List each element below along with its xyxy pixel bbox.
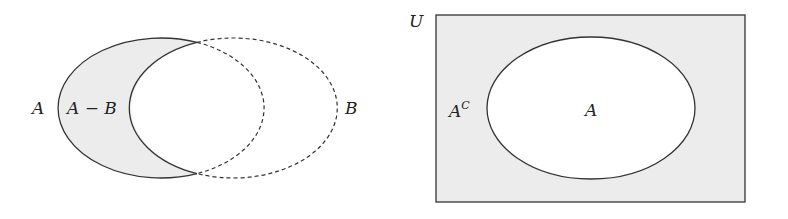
label-a-minus-b: A − B: [65, 98, 117, 118]
label-set-a-inner: A: [583, 100, 597, 120]
label-set-a: A: [30, 98, 44, 118]
complement-diagram: U AC A: [409, 11, 745, 202]
a-minus-b-region: [0, 0, 400, 219]
label-complement-base: A: [447, 101, 461, 121]
label-set-b: B: [344, 98, 358, 118]
label-complement-sup: C: [461, 99, 470, 112]
venn-diagrams: A A − B B U AC A: [0, 0, 788, 219]
label-universe: U: [409, 11, 424, 31]
difference-diagram: A A − B B: [0, 0, 400, 219]
